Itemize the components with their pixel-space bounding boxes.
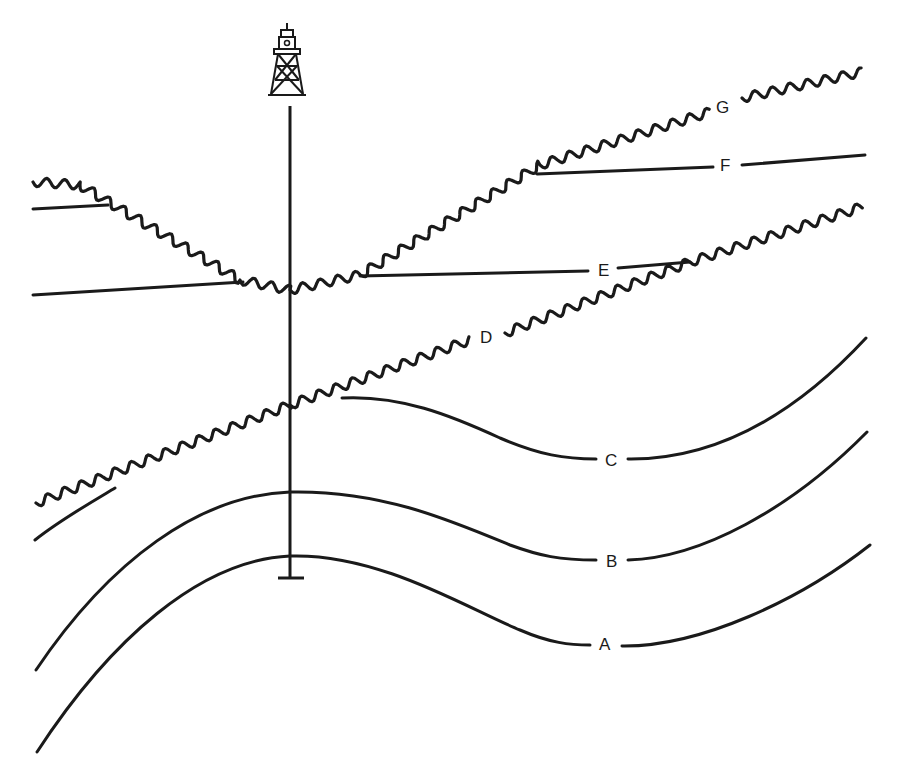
bed-b-line-right bbox=[628, 432, 867, 560]
bed-f-line-right bbox=[742, 155, 865, 165]
unconformity-d-label: D bbox=[480, 328, 492, 347]
bed-e-line-mid bbox=[360, 271, 588, 276]
bed-b-line bbox=[36, 492, 596, 670]
bed-f-label: F bbox=[720, 156, 730, 175]
unconformity-d-line-right bbox=[505, 204, 862, 336]
bed-e-line-right bbox=[618, 262, 690, 268]
bed-c-line-right bbox=[628, 338, 866, 459]
bed-c-line-mid bbox=[342, 398, 596, 459]
bed-a-line bbox=[37, 556, 590, 752]
unconformity-d-line bbox=[36, 337, 469, 506]
bed-a-label: A bbox=[599, 635, 611, 654]
bed-e-label: E bbox=[598, 261, 609, 280]
oil-derrick-icon bbox=[268, 23, 306, 95]
bed-e-line bbox=[33, 282, 243, 295]
cross-section-diagram: A B C D E F G bbox=[0, 0, 900, 775]
bed-a-line-right bbox=[622, 545, 870, 646]
bed-f-line bbox=[33, 205, 108, 209]
bed-f-line-mid bbox=[537, 167, 713, 174]
unconformity-g-label: G bbox=[716, 98, 729, 117]
unconformity-g-line-right bbox=[742, 68, 861, 102]
bed-b-label: B bbox=[606, 552, 617, 571]
bed-c-label: C bbox=[605, 451, 617, 470]
